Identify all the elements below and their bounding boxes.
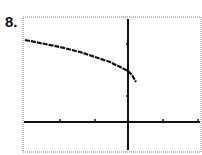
curve (25, 40, 136, 82)
calculator-graph (0, 0, 202, 155)
graph-frame (23, 17, 201, 152)
x-axis (24, 119, 200, 122)
y-axis (126, 19, 128, 150)
